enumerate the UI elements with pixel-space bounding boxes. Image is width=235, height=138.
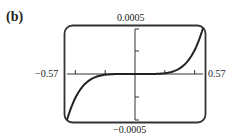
graph-window <box>0 0 235 138</box>
